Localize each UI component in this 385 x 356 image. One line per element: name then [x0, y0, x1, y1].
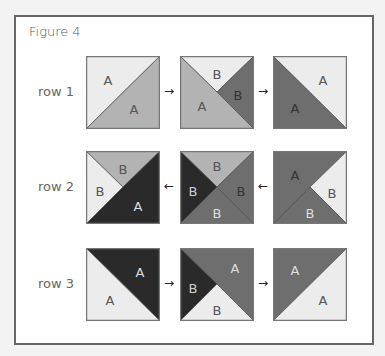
- svg-text:B: B: [213, 206, 222, 221]
- arrow-left-icon: ←: [164, 179, 174, 193]
- svg-text:B: B: [189, 281, 198, 296]
- svg-text:A: A: [291, 168, 300, 183]
- svg-text:A: A: [136, 265, 145, 280]
- quilt-block: AA: [273, 56, 347, 129]
- svg-text:A: A: [104, 73, 113, 88]
- quilt-block: AA: [86, 56, 160, 129]
- svg-text:B: B: [213, 159, 222, 174]
- row-label: row 3: [38, 276, 74, 291]
- svg-text:A: A: [106, 293, 115, 308]
- svg-text:A: A: [130, 102, 139, 117]
- svg-text:A: A: [198, 99, 207, 114]
- quilt-block: ABB: [180, 248, 254, 321]
- svg-text:B: B: [213, 67, 222, 82]
- quilt-block: AA: [273, 248, 347, 321]
- quilt-block: ABB: [273, 151, 347, 224]
- svg-text:B: B: [189, 184, 198, 199]
- quilt-block: BBA: [180, 56, 254, 129]
- row-label: row 1: [38, 84, 74, 99]
- svg-text:B: B: [328, 186, 337, 201]
- arrow-right-icon: →: [258, 276, 268, 290]
- arrow-right-icon: →: [164, 276, 174, 290]
- svg-text:A: A: [291, 263, 300, 278]
- quilt-block: BBBB: [180, 151, 254, 224]
- figure-title: Figure 4: [29, 24, 81, 39]
- svg-text:A: A: [231, 261, 240, 276]
- svg-text:A: A: [134, 199, 143, 214]
- svg-text:B: B: [119, 162, 128, 177]
- svg-text:A: A: [319, 73, 328, 88]
- arrow-right-icon: →: [258, 84, 268, 98]
- svg-text:B: B: [234, 88, 243, 103]
- svg-text:B: B: [306, 206, 315, 221]
- row-label: row 2: [38, 179, 74, 194]
- quilt-block: BBA: [86, 151, 160, 224]
- svg-text:A: A: [319, 293, 328, 308]
- svg-text:B: B: [237, 184, 246, 199]
- svg-text:B: B: [96, 184, 105, 199]
- arrow-right-icon: →: [164, 84, 174, 98]
- quilt-block: AA: [86, 248, 160, 321]
- arrow-left-icon: ←: [258, 179, 268, 193]
- svg-text:B: B: [213, 303, 222, 318]
- svg-text:A: A: [291, 101, 300, 116]
